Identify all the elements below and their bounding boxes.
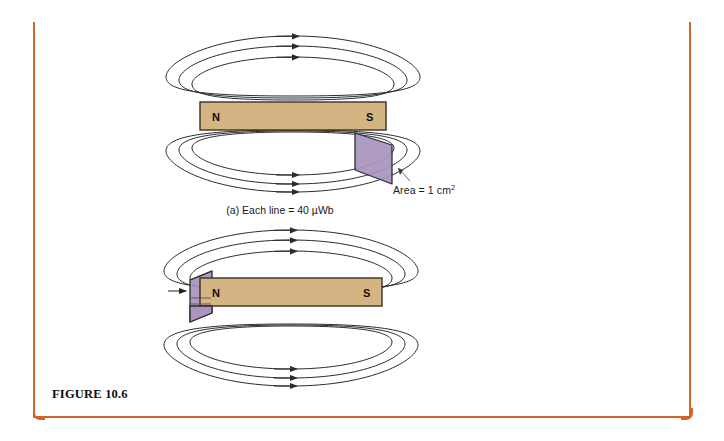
- figure-border-bottom: [33, 416, 691, 418]
- figure-border-corner-left: [33, 408, 45, 420]
- diagram-a: N S Area = 1 cm2 (a) Each line = 40 µWb: [0, 18, 724, 208]
- area-label-a: Area = 1 cm2: [393, 184, 455, 196]
- figure-caption: FIGURE 10.6: [52, 387, 128, 402]
- magnet-south-label-b: S: [363, 287, 370, 299]
- area-leader-a: [398, 168, 410, 181]
- bar-magnet-b: N S: [200, 278, 382, 306]
- magnet-north-label-a: N: [212, 111, 220, 123]
- figure-border-corner-right: [681, 408, 693, 420]
- diagram-b: N S Area = 3 cm2 (b) Each line = 75 µWb: [0, 218, 724, 393]
- magnet-north-label-b: N: [212, 287, 220, 299]
- figure-page: N S Area = 1 cm2 (a) Each line = 40 µWb: [0, 0, 724, 441]
- caption-a: (a) Each line = 40 µWb: [0, 204, 560, 216]
- magnet-south-label-a: S: [366, 111, 373, 123]
- field-lines-below-b: [164, 324, 418, 386]
- bar-magnet-a: N S: [200, 102, 386, 130]
- field-lines-above-a: [166, 36, 420, 100]
